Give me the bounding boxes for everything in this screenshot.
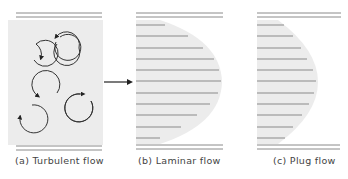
flow-diagram (0, 0, 348, 179)
laminar-panel (136, 13, 223, 149)
plug-velocity-profile (257, 20, 318, 144)
turbulent-panel (8, 13, 103, 150)
plug-caption: (c) Plug flow (273, 155, 336, 166)
laminar-caption: (b) Laminar flow (138, 155, 221, 166)
turbulent-caption: (a) Turbulent flow (15, 155, 104, 166)
laminar-velocity-profile (136, 20, 222, 144)
plug-panel (257, 13, 341, 149)
